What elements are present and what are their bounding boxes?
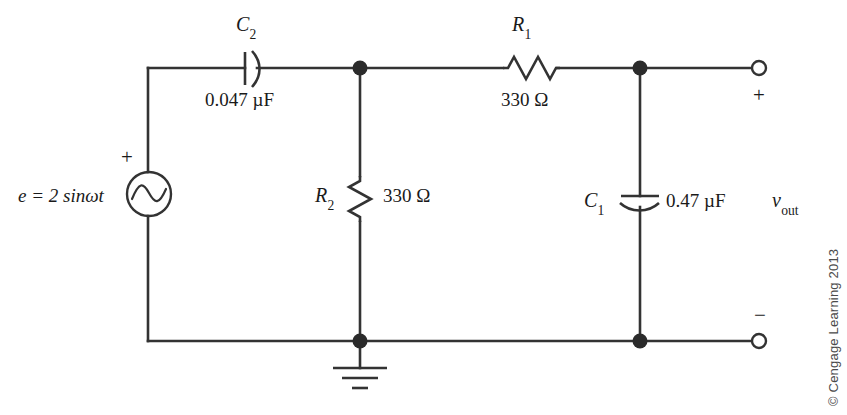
- source-plus-sign: +: [121, 147, 133, 168]
- c1-ref-subscript: 1: [598, 203, 605, 218]
- source-equation-label: e = 2 sinωt: [18, 186, 104, 205]
- ground-symbol: [333, 368, 387, 388]
- r1-reference-label: R1: [512, 14, 531, 39]
- circuit-diagram-figure: e = 2 sinωt + C2 0.047 µF R1 330 Ω R2 33…: [0, 0, 847, 415]
- sine-wave-icon: [132, 185, 166, 201]
- vout-subscript: out: [781, 203, 798, 218]
- wire-network: [148, 68, 752, 368]
- r2-reference-label: R2: [315, 185, 334, 210]
- r1-value-label: 330 Ω: [501, 90, 548, 109]
- c1-value-label: 0.47 µF: [666, 191, 726, 210]
- r1-ref-subscript: 1: [524, 27, 531, 42]
- c2-ref-letter: C: [236, 13, 249, 35]
- resistor-r1-symbol: [503, 57, 560, 79]
- r2-ref-letter: R: [315, 184, 327, 206]
- vout-letter: v: [772, 189, 781, 211]
- c1-reference-label: C1: [584, 190, 604, 215]
- omega-symbol: ω: [85, 185, 98, 206]
- output-terminal-bottom[interactable]: [752, 334, 766, 348]
- c2-reference-label: C2: [236, 14, 256, 39]
- output-terminal-top[interactable]: [752, 61, 766, 75]
- c1-ref-letter: C: [584, 189, 597, 211]
- r2-ref-subscript: 2: [327, 198, 334, 213]
- r1-ref-letter: R: [512, 13, 524, 35]
- junction-dot-node-b-bottom: [633, 334, 648, 349]
- r1-zigzag: [503, 57, 560, 79]
- junction-dot-node-a-top: [353, 61, 368, 76]
- junction-dot-node-b-top: [633, 61, 648, 76]
- r2-value-label: 330 Ω: [383, 186, 430, 205]
- output-plus-sign: +: [753, 85, 765, 106]
- source-equation-tail: t: [99, 185, 104, 206]
- c2-value-label: 0.047 µF: [205, 90, 274, 109]
- r2-zigzag: [349, 176, 371, 222]
- source-equation-text: e = 2 sin: [18, 185, 85, 206]
- ac-source-symbol: [127, 172, 171, 216]
- junction-dot-node-a-bottom: [353, 334, 368, 349]
- vout-label: vout: [772, 190, 798, 215]
- resistor-r2-symbol: [349, 176, 371, 222]
- copyright-credit: © Cengage Learning 2013: [826, 249, 841, 406]
- c2-ref-subscript: 2: [250, 27, 257, 42]
- output-minus-sign: −: [754, 305, 766, 326]
